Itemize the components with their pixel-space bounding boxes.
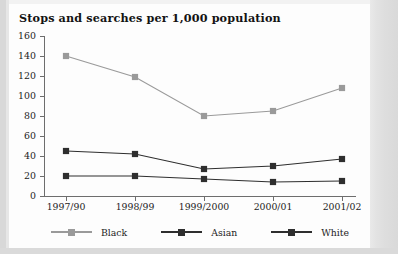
- legend-line: [271, 231, 288, 232]
- x-axis-label: 1997/90: [26, 201, 106, 212]
- legend-line: [295, 231, 312, 232]
- y-axis-tick: [40, 136, 44, 137]
- page-edge-shadow: [370, 0, 398, 254]
- y-axis-tick: [40, 56, 44, 57]
- legend-line: [161, 231, 178, 232]
- y-axis-tick: [40, 116, 44, 117]
- x-axis-line: [44, 196, 356, 197]
- legend-marker-icon: [178, 229, 185, 236]
- x-axis-label: 1999/2000: [164, 201, 244, 212]
- x-axis-label: 1998/99: [95, 201, 175, 212]
- y-axis-tick: [40, 176, 44, 177]
- legend-marker-icon: [288, 229, 295, 236]
- y-axis-label: 140: [0, 50, 36, 61]
- y-axis-label: 120: [0, 70, 36, 81]
- y-axis-label: 100: [0, 90, 36, 101]
- legend-line: [185, 231, 202, 232]
- chart-legend: BlackAsianWhite: [44, 224, 356, 240]
- legend-item-black[interactable]: Black: [51, 227, 127, 238]
- chart-figure: Stops and searches per 1,000 population …: [0, 0, 398, 254]
- y-axis-tick: [40, 76, 44, 77]
- legend-label: White: [321, 227, 349, 238]
- legend-line: [51, 231, 68, 232]
- chart-title: Stops and searches per 1,000 population: [19, 11, 281, 25]
- y-axis-line: [44, 36, 45, 197]
- y-axis-label: 160: [0, 30, 36, 41]
- y-axis-tick: [40, 196, 44, 197]
- y-axis-label: 60: [0, 130, 36, 141]
- x-axis-label: 2001/02: [302, 201, 382, 212]
- legend-line: [75, 231, 92, 232]
- y-axis-tick: [40, 36, 44, 37]
- x-axis-label: 2000/01: [233, 201, 313, 212]
- y-axis-tick: [40, 96, 44, 97]
- y-axis-label: 0: [0, 190, 36, 201]
- legend-label: Asian: [211, 227, 237, 238]
- page-bottom-edge: [0, 248, 398, 254]
- y-axis-tick: [40, 156, 44, 157]
- legend-marker-icon: [68, 229, 75, 236]
- legend-item-white[interactable]: White: [271, 227, 349, 238]
- y-axis-label: 20: [0, 170, 36, 181]
- legend-item-asian[interactable]: Asian: [161, 227, 237, 238]
- y-axis-label: 80: [0, 110, 36, 121]
- y-axis-label: 40: [0, 150, 36, 161]
- legend-label: Black: [101, 227, 127, 238]
